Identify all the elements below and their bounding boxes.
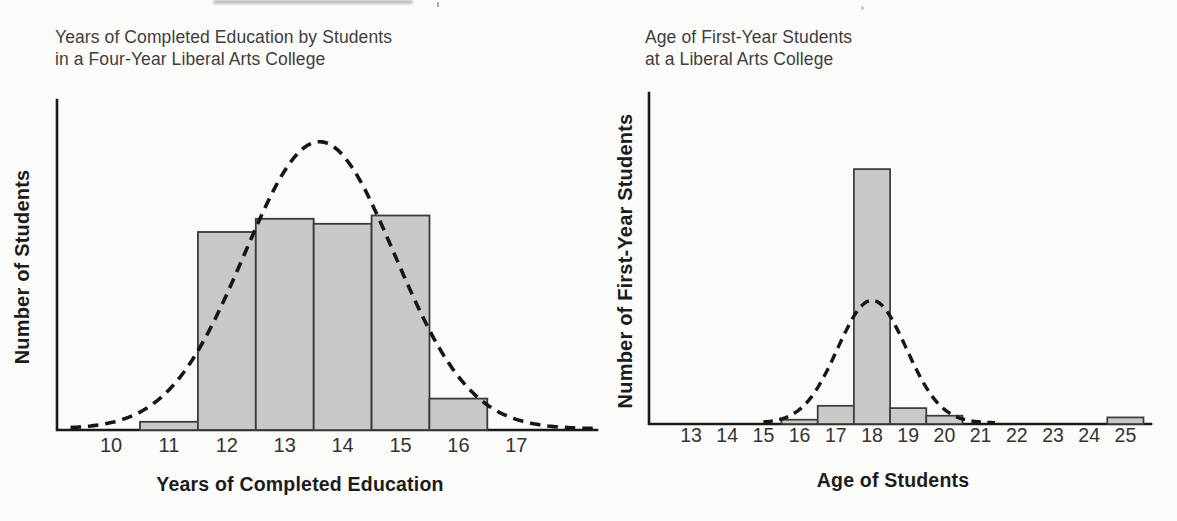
x-tick-label: 17 bbox=[505, 434, 527, 456]
x-tick-label: 16 bbox=[789, 424, 811, 446]
x-tick-label: 21 bbox=[970, 424, 992, 446]
x-tick-label: 16 bbox=[447, 434, 469, 456]
x-tick-label: 17 bbox=[825, 424, 847, 446]
histogram-bar bbox=[429, 399, 487, 430]
histogram-bar bbox=[854, 169, 890, 424]
x-tick-label: 13 bbox=[274, 434, 296, 456]
chart-title: Years of Completed Education by Students… bbox=[55, 26, 392, 70]
education-histogram-plot: 1011121314151617 bbox=[40, 85, 600, 475]
axis-lines bbox=[649, 93, 1151, 424]
x-tick-label: 15 bbox=[389, 434, 411, 456]
histogram-bar bbox=[256, 219, 314, 430]
x-axis-label: Age of Students bbox=[817, 469, 970, 492]
histogram-bar bbox=[198, 232, 256, 430]
x-axis-label: Years of Completed Education bbox=[0, 473, 600, 496]
histogram-bar bbox=[818, 406, 854, 424]
scanned-figure-page: Years of Completed Education by Students… bbox=[0, 0, 1177, 521]
x-tick-label: 11 bbox=[159, 434, 180, 456]
x-tick-label: 25 bbox=[1115, 424, 1137, 446]
x-tick-label: 22 bbox=[1006, 424, 1028, 446]
histogram-bar bbox=[372, 216, 430, 431]
x-tick-label: 20 bbox=[934, 424, 956, 446]
x-tick-label: 13 bbox=[680, 424, 702, 446]
x-tick-label: 24 bbox=[1078, 424, 1100, 446]
histogram-bar bbox=[314, 224, 372, 430]
histogram-bar bbox=[890, 408, 926, 424]
x-tick-label: 14 bbox=[716, 424, 738, 446]
age-histogram-plot: 13141516171819202122232425 bbox=[630, 85, 1177, 475]
x-tick-label: 15 bbox=[753, 424, 775, 446]
x-tick-label: 18 bbox=[861, 424, 883, 446]
histogram-bar bbox=[1107, 417, 1143, 424]
y-axis-label: Number of Students bbox=[11, 170, 34, 365]
x-tick-label: 14 bbox=[331, 434, 353, 456]
x-tick-label: 19 bbox=[897, 424, 919, 446]
histogram-bar bbox=[140, 422, 198, 430]
x-tick-label: 10 bbox=[100, 434, 122, 456]
chart-title: Age of First-Year Students at a Liberal … bbox=[645, 26, 852, 70]
x-tick-label: 23 bbox=[1042, 424, 1064, 446]
age-histogram-chart: Age of First-Year Students at a Liberal … bbox=[600, 0, 1177, 521]
education-histogram-chart: Years of Completed Education by Students… bbox=[0, 0, 600, 521]
x-tick-label: 12 bbox=[216, 434, 238, 456]
